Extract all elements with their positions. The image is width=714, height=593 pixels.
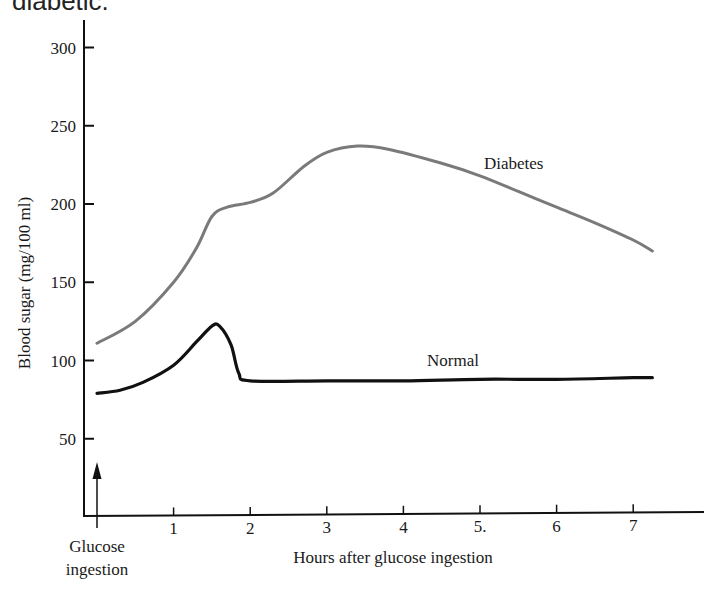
- x-tick-label: 4: [399, 518, 408, 537]
- x-tick-label: 3: [323, 518, 332, 537]
- y-axis-label: Blood sugar (mg/100 ml): [15, 197, 34, 369]
- legend-label-diabetes: Diabetes: [484, 154, 543, 173]
- y-tick-label: 300: [51, 39, 77, 58]
- x-tick-label: 5.: [474, 517, 487, 536]
- glucose-tolerance-chart: 5010015020025030012345.67Blood sugar (mg…: [0, 0, 714, 593]
- glucose-ingestion-label: Glucose: [69, 537, 125, 556]
- x-tick-label: 1: [169, 519, 178, 538]
- x-tick-label: 6: [552, 517, 561, 536]
- arrow-up-icon: [93, 462, 102, 479]
- y-tick-label: 100: [51, 352, 77, 371]
- y-tick-label: 200: [51, 195, 77, 214]
- y-tick-label: 150: [51, 273, 77, 292]
- legend-label-normal: Normal: [427, 351, 479, 370]
- series-line-normal: [97, 324, 652, 393]
- y-tick-label: 250: [51, 117, 77, 136]
- series-line-diabetes: [97, 146, 652, 343]
- x-axis-line: [83, 512, 704, 516]
- y-tick-label: 50: [59, 430, 76, 449]
- x-axis-label: Hours after glucose ingestion: [293, 548, 493, 567]
- glucose-ingestion-label: ingestion: [66, 560, 129, 579]
- x-tick-label: 2: [246, 519, 255, 538]
- x-tick-label: 7: [629, 516, 638, 535]
